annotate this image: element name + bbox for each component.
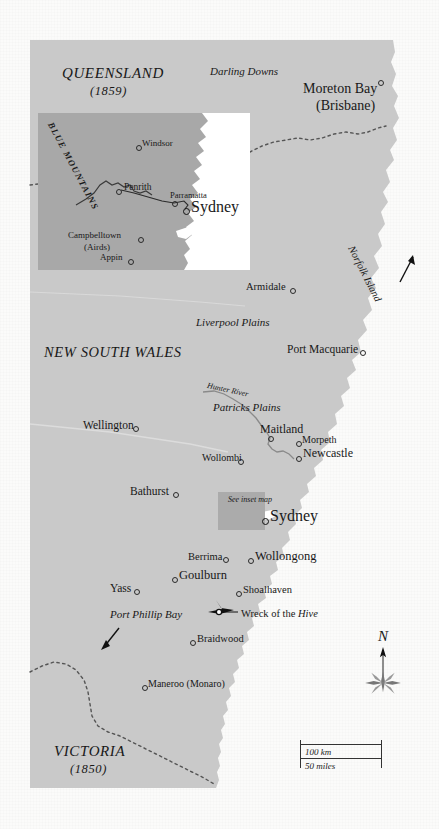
label-braidwood: Braidwood xyxy=(197,633,244,644)
label-yass: Yass xyxy=(110,582,131,594)
compass-north-label: N xyxy=(360,628,406,645)
marker-armidale xyxy=(290,288,296,294)
marker-braidwood xyxy=(190,640,196,646)
inset-marker-penrith xyxy=(116,189,122,195)
label-armidale: Armidale xyxy=(246,281,286,292)
label-goulburn: Goulburn xyxy=(179,569,227,582)
wreck-text: Wreck of the xyxy=(241,608,295,619)
scale-bar: 100 km 50 miles xyxy=(300,744,382,772)
marker-maitland xyxy=(268,436,274,442)
inset-marker-appin xyxy=(128,259,134,265)
label-sydney: Sydney xyxy=(270,508,318,525)
label-maneroo: Maneroo (Monaro) xyxy=(148,679,225,690)
scale-bar-ticks xyxy=(300,740,382,768)
marker-yass xyxy=(134,589,140,595)
inset-label-sydney: Sydney xyxy=(191,199,239,216)
area-label-darling-downs: Darling Downs xyxy=(210,66,278,78)
label-shoalhaven: Shoalhaven xyxy=(243,584,292,595)
marker-berrima xyxy=(223,557,229,563)
inset-marker-campbelltown xyxy=(138,237,144,243)
wreck-ship-name: Hive xyxy=(298,608,318,619)
inset-label-appin: Appin xyxy=(100,253,123,262)
compass-needle-icon xyxy=(360,644,406,700)
shipwreck-icon xyxy=(204,596,240,620)
label-wellington: Wellington xyxy=(83,419,134,431)
marker-newcastle xyxy=(296,456,302,462)
label-newcastle: Newcastle xyxy=(303,447,353,460)
area-label-liverpool-plains: Liverpool Plains xyxy=(196,317,270,329)
label-wreck-of-the-hive: Wreck of the Hive xyxy=(241,608,318,619)
region-year-victoria: (1850) xyxy=(70,763,107,776)
marker-moreton-bay xyxy=(378,80,384,86)
inset-marker-sydney xyxy=(183,208,190,215)
label-wollombi: Wollombi xyxy=(202,453,242,464)
compass-rose: N xyxy=(360,628,406,700)
region-label-queensland: QUEENSLAND xyxy=(62,66,164,82)
label-maitland: Maitland xyxy=(260,423,303,436)
inset-label-windsor: Windsor xyxy=(142,139,173,148)
marker-bathurst xyxy=(173,492,179,498)
label-morpeth: Morpeth xyxy=(302,435,336,446)
region-label-new-south-wales: NEW SOUTH WALES xyxy=(44,345,182,360)
label-bathurst: Bathurst xyxy=(130,485,169,497)
area-label-patricks-plains: Patricks Plains xyxy=(213,402,281,414)
port-phillip-arrow-icon xyxy=(97,625,123,653)
label-wollongong: Wollongong xyxy=(255,550,317,563)
label-moreton-bay-sub: (Brisbane) xyxy=(316,99,375,114)
label-moreton-bay: Moreton Bay xyxy=(303,82,377,97)
marker-wollongong xyxy=(248,558,254,564)
marker-port-macquarie xyxy=(360,350,366,356)
marker-sydney xyxy=(262,518,269,525)
inset-map-panel[interactable]: BLUE MOUNTAINS Windsor Penrith Parramatt… xyxy=(38,113,250,270)
inset-marker-parramatta xyxy=(172,201,178,207)
region-label-victoria: VICTORIA xyxy=(54,744,125,760)
inset-label-penrith: Penrith xyxy=(124,183,151,193)
label-see-inset-map: See inset map xyxy=(228,496,272,504)
label-berrima: Berrima xyxy=(188,551,222,562)
inset-label-campbelltown: Campbelltown xyxy=(68,231,121,240)
marker-goulburn xyxy=(172,577,178,583)
label-port-macquarie: Port Macquarie xyxy=(287,343,358,355)
map-canvas: BLUE MOUNTAINS Windsor Penrith Parramatt… xyxy=(0,0,439,829)
label-port-phillip-bay: Port Phillip Bay xyxy=(110,609,182,621)
norfolk-island-arrow-icon xyxy=(396,252,418,284)
region-year-queensland: (1859) xyxy=(90,85,127,98)
